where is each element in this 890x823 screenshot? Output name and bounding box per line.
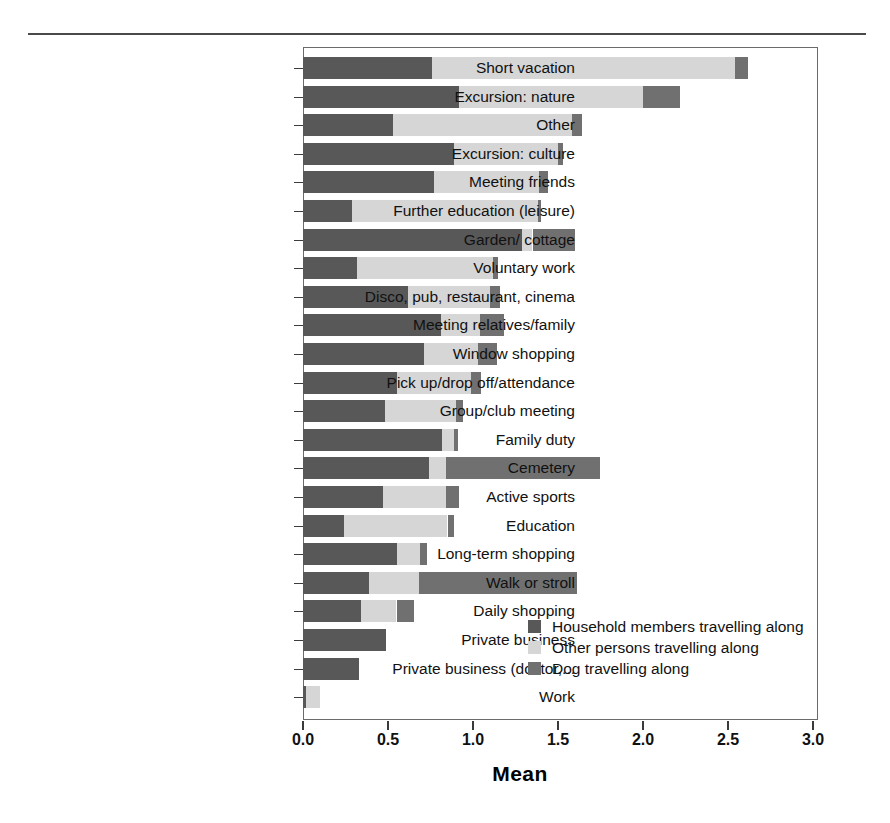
legend-label: Dog travelling along — [552, 658, 689, 679]
figure: Short vacationExcursion: natureOtherExcu… — [0, 0, 890, 823]
legend-label: Other persons travelling along — [552, 637, 759, 658]
x-axis-title-text: Mean — [492, 762, 548, 786]
legend-swatch-dog — [528, 662, 541, 675]
x-tick-label: 0.0 — [292, 731, 314, 749]
x-tick-mark — [302, 721, 304, 730]
x-axis-ticks: 0.00.51.01.52.02.53.0 — [0, 0, 890, 823]
x-tick-label: 2.5 — [717, 731, 739, 749]
x-tick-label: 1.5 — [547, 731, 569, 749]
legend-item: Household members travelling along — [528, 616, 804, 637]
x-tick-label: 0.5 — [377, 731, 399, 749]
x-axis-title: Mean — [0, 762, 890, 786]
x-tick-mark — [387, 721, 389, 730]
x-tick-label: 2.0 — [632, 731, 654, 749]
legend-item: Dog travelling along — [528, 658, 804, 679]
x-tick-label: 1.0 — [462, 731, 484, 749]
legend-swatch-other — [528, 641, 541, 654]
x-tick-label: 3.0 — [802, 731, 824, 749]
legend-label: Household members travelling along — [552, 616, 804, 637]
legend-item: Other persons travelling along — [528, 637, 804, 658]
x-tick-mark — [472, 721, 474, 730]
x-tick-mark — [557, 721, 559, 730]
legend: Household members travelling alongOther … — [528, 616, 804, 679]
x-tick-mark — [812, 721, 814, 730]
legend-swatch-household — [528, 620, 541, 633]
x-tick-mark — [727, 721, 729, 730]
x-tick-mark — [642, 721, 644, 730]
